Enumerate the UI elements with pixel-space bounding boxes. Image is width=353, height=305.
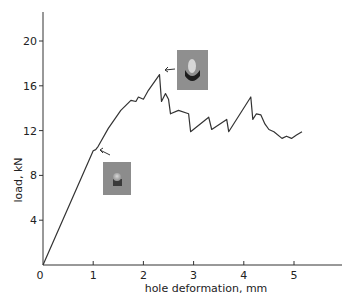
arrow-icon xyxy=(165,67,175,72)
y-axis-label: load, kN xyxy=(12,157,25,202)
y-tick-label: 4 xyxy=(30,214,37,227)
y-tick-label: 16 xyxy=(23,80,37,93)
x-tick-label: 3 xyxy=(190,269,197,282)
axes xyxy=(43,12,342,265)
inset-photo-peak xyxy=(177,50,208,90)
x-tick-label: 5 xyxy=(291,269,298,282)
y-tick-label: 12 xyxy=(23,125,37,138)
load-deformation-chart: 012345 48121620 hole deformation, mm loa… xyxy=(0,0,353,305)
arrow-icon xyxy=(100,148,110,155)
x-axis-label: hole deformation, mm xyxy=(145,282,268,295)
x-tick-label: 2 xyxy=(140,269,147,282)
inset-photo-knee xyxy=(103,162,131,195)
x-tick-label: 0 xyxy=(37,269,44,282)
y-ticks: 48121620 xyxy=(23,35,43,227)
x-tick-label: 1 xyxy=(90,269,97,282)
x-ticks: 012345 xyxy=(37,261,298,282)
x-tick-label: 4 xyxy=(240,269,247,282)
y-tick-label: 8 xyxy=(30,169,37,182)
data-line xyxy=(43,75,302,265)
y-tick-label: 20 xyxy=(23,35,37,48)
